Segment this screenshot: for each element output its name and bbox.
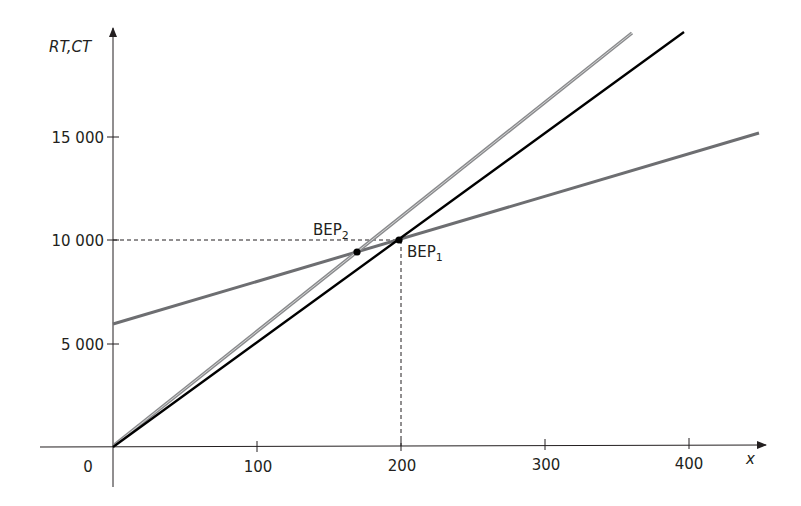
- x-tick-label-0: 0: [83, 458, 93, 476]
- ct-line: [113, 133, 759, 324]
- bep1-point: [395, 236, 402, 243]
- break-even-chart: 0 100 200 300 400 5 000 10 000 15 000 RT…: [0, 0, 801, 506]
- y-tick-label-10000: 10 000: [52, 232, 105, 250]
- bep1-label: BEP1: [407, 243, 443, 264]
- x-axis-title: x: [745, 450, 755, 468]
- y-tick-label-5000: 5 000: [61, 336, 104, 354]
- x-tick-label-400: 400: [675, 455, 704, 473]
- bep2-label: BEP2: [313, 221, 349, 242]
- x-tick-label-100: 100: [244, 458, 273, 476]
- x-tick-label-200: 200: [388, 457, 417, 475]
- x-tick-label-300: 300: [532, 456, 561, 474]
- y-tick-label-15000: 15 000: [52, 129, 105, 147]
- y-axis-title: RT,CT: [49, 38, 93, 56]
- bep2-point: [353, 248, 360, 255]
- x-axis: [40, 445, 766, 447]
